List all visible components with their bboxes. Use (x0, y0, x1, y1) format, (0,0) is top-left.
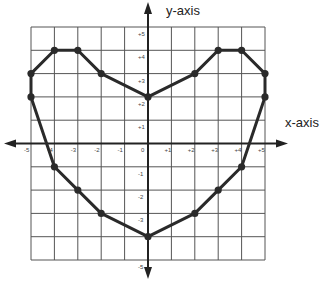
y-axis-label: y-axis (166, 3, 200, 18)
y-tick-label: -2 (138, 194, 144, 200)
y-tick-label: +3 (138, 78, 146, 84)
data-point (191, 70, 198, 77)
y-tick-label: +5 (138, 31, 146, 37)
x-tick-label: +4 (235, 147, 243, 153)
data-point (51, 47, 58, 54)
x-tick-label: -3 (71, 147, 77, 153)
data-point (144, 93, 151, 100)
x-tick-label: +3 (211, 147, 219, 153)
y-tick-label: -3 (138, 217, 144, 223)
x-tick-label: -1 (118, 147, 124, 153)
data-point (191, 210, 198, 217)
data-point (238, 163, 245, 170)
x-tick-label: -5 (24, 147, 30, 153)
data-point (98, 210, 105, 217)
x-axis-arrow-right (276, 140, 288, 148)
y-tick-label: -1 (138, 171, 144, 177)
data-point (74, 47, 81, 54)
y-tick-label: +4 (138, 54, 146, 60)
data-point (261, 93, 268, 100)
data-point (27, 70, 34, 77)
data-point (215, 187, 222, 194)
y-tick-label: -5 (138, 264, 144, 270)
data-point (215, 47, 222, 54)
y-axis-arrow-up (144, 2, 152, 14)
data-point (98, 70, 105, 77)
x-tick-label: +2 (188, 147, 196, 153)
x-tick-label: +5 (258, 147, 266, 153)
x-tick-label: -2 (94, 147, 100, 153)
y-tick-label: +2 (138, 101, 146, 107)
data-point (27, 93, 34, 100)
y-axis-arrow-down (144, 267, 152, 279)
x-tick-label: +1 (164, 147, 172, 153)
data-point (238, 47, 245, 54)
x-axis-label: x-axis (285, 115, 319, 130)
data-point (51, 163, 58, 170)
x-tick-label: 0 (141, 147, 145, 153)
data-point (144, 233, 151, 240)
data-point (74, 187, 81, 194)
data-point (261, 70, 268, 77)
heart-chart: -5-4-3-2-10+1+2+3+4+5+5+4+3+2+1-1-2-3-5 … (0, 0, 323, 282)
x-axis-arrow-left (4, 140, 16, 148)
y-tick-label: +1 (138, 124, 146, 130)
